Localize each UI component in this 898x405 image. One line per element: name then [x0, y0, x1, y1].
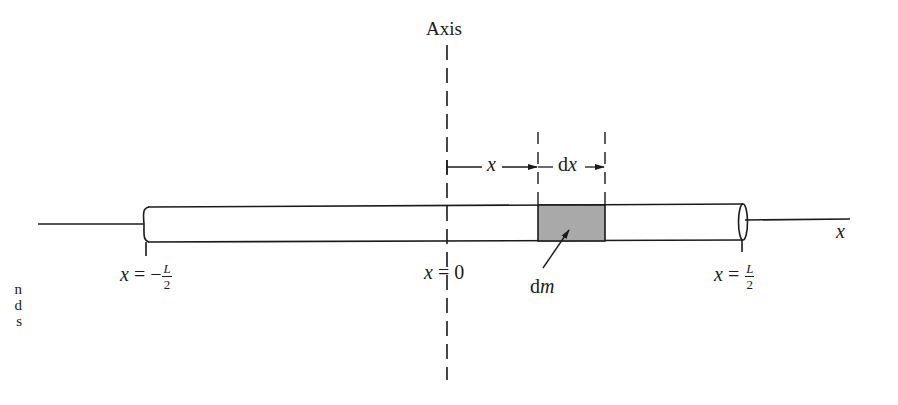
center-eq: = 0: [433, 261, 464, 283]
fraction-numerator: L: [162, 262, 171, 277]
center-var: x: [424, 261, 433, 283]
dm-m: m: [540, 275, 554, 297]
left-endpoint-eq: = −: [129, 263, 162, 285]
left-endpoint-var: x: [120, 263, 129, 285]
caption-line: s: [0, 313, 22, 329]
right-endpoint-eq: =: [723, 263, 744, 285]
center-label: x = 0: [424, 262, 464, 282]
fraction-denominator: 2: [162, 277, 171, 291]
caption-line: d: [0, 297, 22, 313]
mass-element: [538, 205, 605, 241]
fraction-denominator: 2: [745, 277, 754, 291]
right-endpoint-fraction: L2: [745, 262, 754, 291]
rod-diagram: [0, 0, 898, 405]
caption-fragment: n d s: [0, 281, 22, 329]
dimension-dx-label: dx: [555, 154, 580, 174]
dx-d: d: [558, 153, 568, 175]
left-endpoint-label: x = −L2: [120, 262, 172, 291]
right-endpoint-var: x: [714, 263, 723, 285]
caption-line: n: [0, 281, 22, 297]
dm-d: d: [530, 275, 540, 297]
left-endpoint-fraction: L2: [162, 262, 171, 291]
right-endpoint-label: x = L2: [714, 262, 754, 291]
axis-title: Axis: [426, 19, 462, 38]
x-axis-line: [38, 219, 850, 224]
dimension-x-label: x: [484, 154, 499, 174]
x-axis-label: x: [836, 221, 845, 241]
rod: [144, 204, 748, 256]
mass-element-label: dm: [530, 276, 554, 296]
dx-x: x: [568, 153, 577, 175]
fraction-numerator: L: [745, 262, 754, 277]
